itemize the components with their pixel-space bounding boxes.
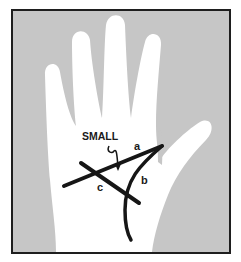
palm-diagram: SMALL a b c (0, 0, 241, 262)
label-a: a (134, 140, 141, 152)
label-c: c (97, 181, 103, 193)
label-small: SMALL (82, 130, 119, 142)
label-b: b (141, 174, 148, 186)
